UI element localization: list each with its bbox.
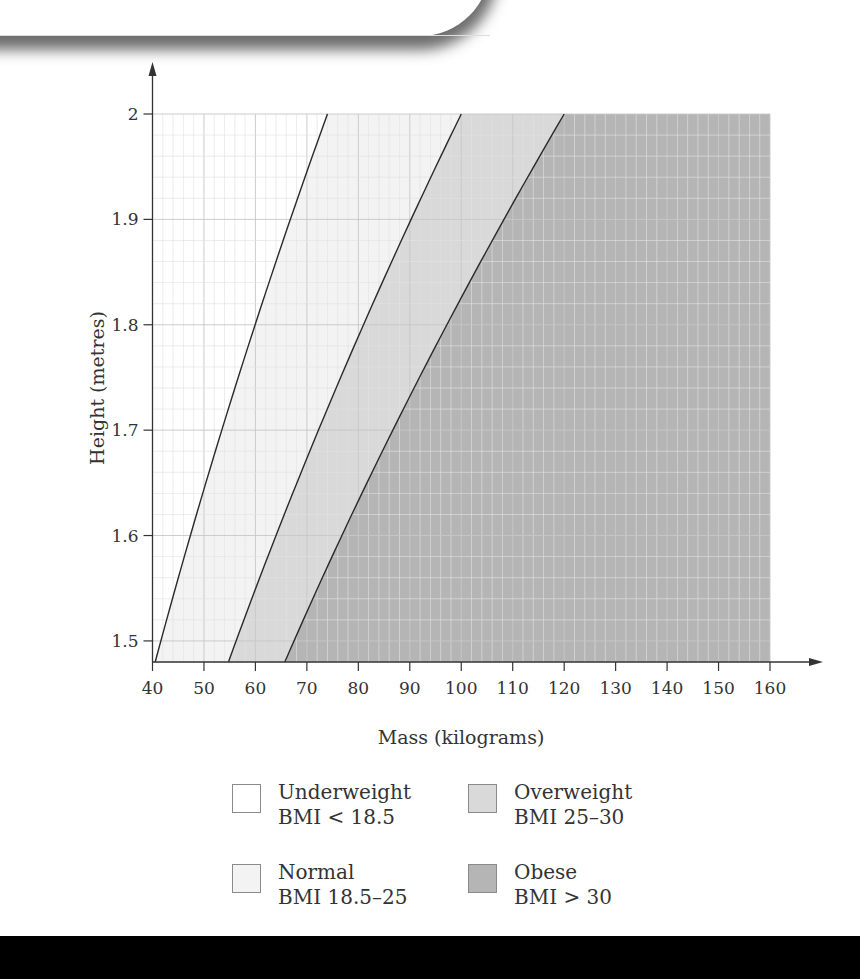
svg-text:1.5: 1.5 (111, 631, 138, 651)
legend-range: BMI < 18.5 (278, 805, 411, 830)
legend-label: Underweight (278, 780, 411, 805)
svg-text:110: 110 (496, 678, 528, 698)
svg-text:70: 70 (296, 678, 318, 698)
overweight-swatch (468, 784, 497, 813)
legend-item-obese: Obese BMI > 30 (468, 860, 688, 920)
svg-text:100: 100 (445, 678, 477, 698)
normal-swatch (232, 864, 261, 893)
chart-grid (153, 114, 771, 662)
legend-range: BMI 25–30 (514, 805, 632, 830)
svg-text:1.9: 1.9 (111, 209, 138, 229)
legend-range: BMI 18.5–25 (278, 885, 407, 910)
svg-text:130: 130 (599, 678, 631, 698)
svg-text:120: 120 (548, 678, 580, 698)
obese-swatch (468, 864, 497, 893)
svg-text:1.8: 1.8 (111, 315, 138, 335)
legend-label: Obese (514, 860, 612, 885)
svg-text:2: 2 (128, 104, 139, 124)
legend-item-normal: Normal BMI 18.5–25 (232, 860, 452, 920)
x-axis-title: Mass (kilograms) (378, 726, 545, 748)
footer-bar (0, 936, 860, 979)
underweight-swatch (232, 784, 261, 813)
svg-text:1.6: 1.6 (111, 526, 138, 546)
legend: Underweight BMI < 18.5 Overweight BMI 25… (232, 780, 672, 930)
legend-label: Normal (278, 860, 407, 885)
svg-text:160: 160 (754, 678, 786, 698)
legend-item-overweight: Overweight BMI 25–30 (468, 780, 688, 840)
legend-label: Overweight (514, 780, 632, 805)
bmi-chart: 405060708090100110120130140150160 1.51.6… (0, 0, 860, 780)
legend-range: BMI > 30 (514, 885, 612, 910)
svg-text:140: 140 (651, 678, 683, 698)
y-axis-title: Height (metres) (86, 311, 108, 465)
svg-text:40: 40 (142, 678, 164, 698)
svg-text:1.7: 1.7 (111, 420, 138, 440)
svg-text:80: 80 (348, 678, 370, 698)
svg-text:60: 60 (245, 678, 267, 698)
x-axis-ticks: 405060708090100110120130140150160 (142, 662, 787, 698)
svg-text:90: 90 (399, 678, 421, 698)
svg-text:150: 150 (702, 678, 734, 698)
y-axis-ticks: 1.51.61.71.81.92 (111, 104, 152, 651)
legend-item-underweight: Underweight BMI < 18.5 (232, 780, 452, 840)
svg-text:50: 50 (193, 678, 215, 698)
